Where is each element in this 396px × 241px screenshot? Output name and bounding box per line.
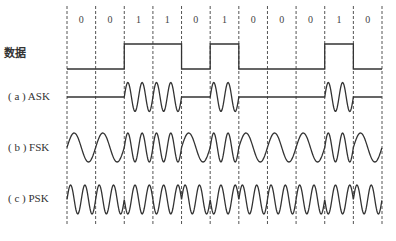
data-waveform: [67, 44, 382, 69]
waveform-canvas: [0, 0, 396, 241]
ask-waveform: [67, 83, 382, 112]
fsk-waveform: [67, 133, 382, 162]
psk-waveform: [67, 185, 382, 214]
